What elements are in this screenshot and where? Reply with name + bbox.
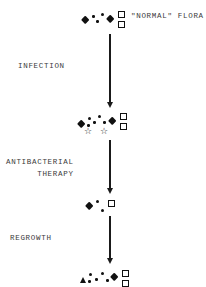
- arrow-infection-head: [107, 102, 113, 108]
- glyph-filled-diamond: [108, 117, 117, 126]
- glyph-filled-dot: [98, 115, 101, 118]
- glyph-filled-triangle: [80, 277, 86, 283]
- arrow-infection-line: [109, 34, 111, 102]
- glyph-filled-dot: [96, 20, 99, 23]
- glyph-filled-dot: [88, 280, 91, 283]
- glyph-open-square: [120, 113, 127, 120]
- glyph-filled-dot: [95, 278, 98, 281]
- glyph-filled-dot: [103, 121, 106, 124]
- glyph-open-square: [120, 123, 127, 130]
- glyph-filled-dot: [92, 15, 95, 18]
- glyph-filled-dot: [101, 272, 104, 275]
- glyph-filled-dot: [101, 13, 104, 16]
- stage-label-line-2: THERAPY: [6, 168, 74, 180]
- glyph-filled-dot: [89, 273, 92, 276]
- arrow-therapy-head: [107, 188, 113, 194]
- stage-label-antibacterial-therapy: ANTIBACTERIALTHERAPY: [6, 156, 74, 180]
- glyph-filled-dot: [96, 200, 99, 203]
- arrow-regrowth-line: [109, 216, 111, 258]
- glyph-filled-dot: [93, 121, 96, 124]
- glyph-filled-diamond: [110, 273, 119, 282]
- glyph-filled-diamond: [81, 16, 90, 25]
- glyph-open-star: ☆: [100, 127, 108, 136]
- glyph-open-square: [108, 200, 115, 207]
- stage-label-infection: INFECTION: [18, 60, 65, 72]
- flora-title-label: "NORMAL" FLORA: [131, 12, 204, 20]
- glyph-filled-diamond: [85, 202, 94, 211]
- arrow-regrowth-head: [107, 258, 113, 264]
- stage-label-regrowth: REGROWTH: [10, 232, 52, 244]
- glyph-open-square: [118, 11, 125, 18]
- glyph-open-square: [122, 280, 129, 287]
- glyph-filled-dot: [88, 117, 91, 120]
- glyph-open-star: ☆: [84, 127, 92, 136]
- arrow-therapy-line: [109, 140, 111, 188]
- glyph-filled-diamond: [106, 15, 115, 24]
- glyph-open-square: [118, 21, 125, 28]
- glyph-filled-dot: [106, 279, 109, 282]
- glyph-open-square: [122, 270, 129, 277]
- stage-label-line-1: ANTIBACTERIAL: [6, 156, 74, 168]
- glyph-filled-dot: [101, 209, 104, 212]
